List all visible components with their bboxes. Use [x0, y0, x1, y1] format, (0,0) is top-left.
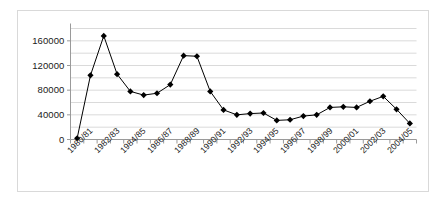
chart-canvas — [0, 0, 448, 213]
data-point-marker — [314, 112, 320, 118]
y-axis-label: 160000 — [32, 35, 64, 46]
data-point-marker — [234, 112, 240, 118]
line-chart: 040000800001200001600001980/811982/83198… — [0, 0, 448, 213]
data-point-marker — [101, 33, 107, 39]
y-axis-label: 80000 — [38, 84, 65, 95]
data-line — [77, 36, 410, 138]
data-point-marker — [141, 92, 147, 98]
data-point-marker — [287, 117, 293, 123]
data-point-marker — [367, 98, 373, 104]
data-point-marker — [327, 104, 333, 110]
y-axis-label: 40000 — [38, 109, 65, 120]
data-point-marker — [274, 117, 280, 123]
data-point-marker — [194, 53, 200, 59]
data-point-marker — [167, 82, 173, 88]
data-markers — [74, 33, 413, 142]
data-point-marker — [354, 104, 360, 110]
y-axis-label: 0 — [59, 134, 64, 145]
y-axis-ticks — [67, 41, 71, 140]
data-point-marker — [247, 111, 253, 117]
data-point-marker — [340, 104, 346, 110]
y-axis-label: 120000 — [32, 60, 64, 71]
gridlines — [71, 29, 417, 128]
data-point-marker — [154, 90, 160, 96]
data-point-marker — [300, 113, 306, 119]
